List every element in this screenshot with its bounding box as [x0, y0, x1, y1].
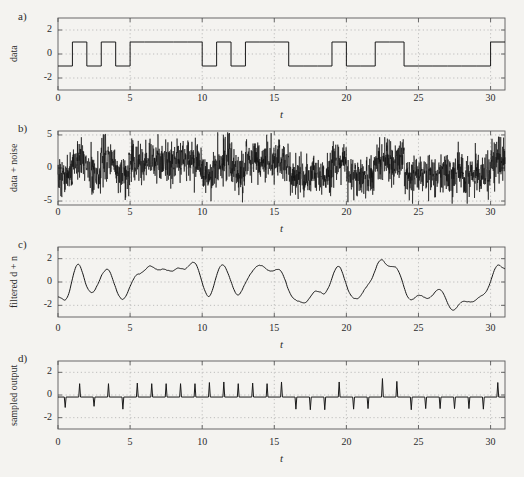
xtick-panel-1-4: 20 [332, 206, 360, 217]
plot-area-panel-2 [0, 0, 524, 477]
plot-area-panel-0 [0, 0, 524, 477]
xtick-panel-0-0: 0 [44, 92, 72, 103]
xtick-panel-3-1: 5 [116, 436, 144, 447]
ytick-panel-0-0: 2 [24, 23, 52, 34]
ytick-panel-1-0: 5 [24, 128, 52, 139]
xtick-panel-0-6: 30 [477, 92, 505, 103]
ytick-panel-2-1: 0 [24, 275, 52, 286]
xtick-panel-0-4: 20 [332, 92, 360, 103]
xtick-panel-2-6: 30 [477, 322, 505, 333]
xtick-panel-0-2: 10 [188, 92, 216, 103]
ytick-panel-0-2: -2 [24, 71, 52, 82]
axis-frame-3 [58, 361, 505, 429]
xtick-panel-0-3: 15 [260, 92, 288, 103]
xtick-panel-3-5: 25 [404, 436, 432, 447]
xtick-panel-3-3: 15 [260, 436, 288, 447]
ylabel-panel-3: sampled output [8, 357, 19, 433]
xtick-panel-2-1: 5 [116, 322, 144, 333]
ytick-panel-1-2: -5 [24, 194, 52, 205]
axis-frame-0 [58, 18, 505, 90]
ytick-panel-3-1: 0 [24, 388, 52, 399]
ytick-panel-0-1: 0 [24, 47, 52, 58]
xtick-panel-3-2: 10 [188, 436, 216, 447]
xtick-panel-1-1: 5 [116, 206, 144, 217]
trace-sampled-output [58, 379, 505, 410]
xtick-panel-3-4: 20 [332, 436, 360, 447]
xtick-panel-2-4: 20 [332, 322, 360, 333]
ytick-panel-1-1: 0 [24, 161, 52, 172]
ytick-panel-3-2: -2 [24, 411, 52, 422]
ylabel-panel-0: data [8, 14, 19, 94]
xtick-panel-2-5: 25 [404, 322, 432, 333]
plot-area-panel-1 [0, 0, 524, 477]
xtick-panel-1-2: 10 [188, 206, 216, 217]
xtick-panel-3-0: 0 [44, 436, 72, 447]
xtick-panel-0-5: 25 [404, 92, 432, 103]
ytick-panel-2-0: 2 [24, 252, 52, 263]
xtick-panel-0-1: 5 [116, 92, 144, 103]
xtick-panel-1-5: 25 [404, 206, 432, 217]
panel-letter-c: c) [18, 238, 27, 250]
ytick-panel-2-2: -2 [24, 298, 52, 309]
xtick-panel-3-6: 30 [477, 436, 505, 447]
trace-filtered [58, 260, 505, 311]
figure-signal-processing-stages: a)datat20-2051015202530b)data + noiset50… [0, 0, 524, 477]
ylabel-panel-2: filtered d + n [8, 243, 19, 321]
axis-frame-1 [58, 131, 505, 205]
trace-data-plus-noise [58, 132, 505, 203]
trace-data-waveform [58, 42, 505, 66]
xtick-panel-2-3: 15 [260, 322, 288, 333]
xtick-panel-2-0: 0 [44, 322, 72, 333]
xlabel-panel-1: t [262, 222, 302, 234]
axis-frame-2 [58, 247, 505, 317]
xlabel-panel-3: t [262, 452, 302, 464]
xtick-panel-1-3: 15 [260, 206, 288, 217]
xlabel-panel-2: t [262, 338, 302, 350]
ylabel-panel-1: data + noise [8, 127, 19, 209]
plot-area-panel-3 [0, 0, 524, 477]
panel-letter-d: d) [18, 352, 27, 364]
xtick-panel-2-2: 10 [188, 322, 216, 333]
ytick-panel-3-0: 2 [24, 365, 52, 376]
panel-letter-a: a) [18, 10, 27, 22]
xtick-panel-1-6: 30 [477, 206, 505, 217]
xtick-panel-1-0: 0 [44, 206, 72, 217]
xlabel-panel-0: t [262, 108, 302, 120]
